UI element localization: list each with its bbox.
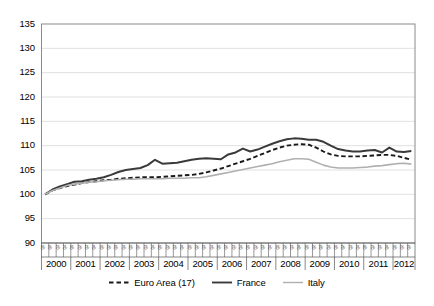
x-quarter-tick-label: Q1 (189, 245, 193, 250)
x-year-label: 2010 (334, 258, 363, 269)
x-quarter-tick-label: Q1 (71, 245, 75, 250)
x-quarter-tick-label: Q3 (86, 245, 90, 250)
plot-border (42, 24, 416, 243)
x-quarter-tick-label: Q4 (269, 245, 273, 250)
y-tick-label: 115 (9, 116, 35, 126)
x-quarter-tick-label: Q1 (394, 245, 398, 250)
x-quarter-tick-label: Q4 (123, 245, 127, 250)
x-year-label: 2000 (42, 258, 71, 269)
x-quarter-tick-label: Q1 (159, 245, 163, 250)
legend-swatch-solid-line-icon (212, 278, 232, 287)
legend-item-italy[interactable]: Italy (283, 277, 325, 288)
x-year-label: 2011 (364, 258, 393, 269)
x-quarter-tick-label: Q2 (342, 245, 346, 250)
x-quarter-tick-label: Q3 (174, 245, 178, 250)
x-year-label: 2012 (393, 258, 415, 269)
line-chart: 1351301251201151101051009590 Q1Q2Q3Q4Q1Q… (0, 0, 434, 306)
x-quarter-tick-label: Q1 (277, 245, 281, 250)
x-quarter-tick-label: Q4 (152, 245, 156, 250)
x-quarter-tick-label: Q2 (225, 245, 229, 250)
x-quarter-tick-label: Q3 (379, 245, 383, 250)
x-quarter-tick-label: Q3 (233, 245, 237, 250)
x-quarter-tick-label: Q1 (101, 245, 105, 250)
x-year-label: 2002 (100, 258, 129, 269)
x-quarter-tick-label: Q4 (298, 245, 302, 250)
x-year-label: 2009 (305, 258, 334, 269)
y-tick-label: 135 (9, 19, 35, 29)
x-quarter-tick-label: Q3 (145, 245, 149, 250)
x-quarter-tick-label: Q4 (64, 245, 68, 250)
x-quarter-tick-label: Q2 (255, 245, 259, 250)
y-tick-label: 95 (9, 213, 35, 223)
legend-swatch-dashed-line-icon (109, 278, 129, 287)
x-quarter-tick-label: Q1 (306, 245, 310, 250)
x-quarter-tick-label: Q1 (335, 245, 339, 250)
chart-legend: Euro Area (17)FranceItaly (0, 277, 434, 288)
x-quarter-tick-label: Q1 (247, 245, 251, 250)
legend-label: France (237, 277, 266, 288)
x-quarter-tick-label: Q4 (386, 245, 390, 250)
x-quarter-tick-label: Q2 (79, 245, 83, 250)
x-quarter-tick-label: Q3 (350, 245, 354, 250)
x-quarter-tick-label: Q3 (203, 245, 207, 250)
x-year-label: 2008 (276, 258, 305, 269)
y-tick-label: 90 (9, 238, 35, 248)
x-year-label: 2006 (217, 258, 246, 269)
x-quarter-tick-label: Q1 (364, 245, 368, 250)
x-quarter-tick-label: Q3 (320, 245, 324, 250)
legend-item-france[interactable]: France (212, 277, 266, 288)
x-year-label: 2007 (247, 258, 276, 269)
x-quarter-tick-label: Q1 (218, 245, 222, 250)
x-quarter-tick-label: Q4 (93, 245, 97, 250)
y-tick-label: 100 (9, 189, 35, 199)
x-year-label: 2001 (71, 258, 100, 269)
x-quarter-tick-label: Q3 (57, 245, 61, 250)
x-quarter-tick-label: Q2 (49, 245, 53, 250)
x-quarter-tick-label: Q2 (372, 245, 376, 250)
series-group (45, 138, 411, 194)
x-quarter-tick-label: Q3 (408, 245, 412, 250)
x-quarter-tick-label: Q4 (357, 245, 361, 250)
x-quarter-tick-label: Q2 (313, 245, 317, 250)
x-quarter-tick-label: Q4 (211, 245, 215, 250)
legend-item-euro-area-17[interactable]: Euro Area (17) (109, 277, 194, 288)
y-tick-label: 105 (9, 165, 35, 175)
x-quarter-tick-label: Q2 (401, 245, 405, 250)
y-tick-label: 130 (9, 43, 35, 53)
x-quarter-tick-label: Q3 (291, 245, 295, 250)
x-quarter-tick-label: Q3 (115, 245, 119, 250)
x-quarter-tick-label: Q4 (328, 245, 332, 250)
gridlines-group (42, 48, 416, 218)
x-quarter-tick-label: Q2 (137, 245, 141, 250)
x-quarter-tick-label: Q4 (240, 245, 244, 250)
series-line-italy (45, 159, 411, 195)
x-quarter-tick-label: Q1 (130, 245, 134, 250)
y-tick-label: 110 (9, 140, 35, 150)
x-quarter-tick-label: Q2 (108, 245, 112, 250)
x-quarter-tick-label: Q2 (284, 245, 288, 250)
x-quarter-tick-label: Q4 (181, 245, 185, 250)
x-quarter-tick-label: Q3 (262, 245, 266, 250)
x-quarter-tick-label: Q2 (167, 245, 171, 250)
x-year-label: 2004 (159, 258, 188, 269)
legend-swatch-solid-line-icon (283, 278, 303, 287)
y-tick-label: 125 (9, 67, 35, 77)
x-year-label: 2005 (188, 258, 217, 269)
x-quarter-tick-label: Q1 (42, 245, 46, 250)
axis-frame (42, 24, 416, 243)
legend-label: Euro Area (17) (134, 277, 194, 288)
x-year-label: 2003 (129, 258, 158, 269)
x-quarter-tick-label: Q2 (196, 245, 200, 250)
y-tick-label: 120 (9, 92, 35, 102)
legend-label: Italy (308, 277, 325, 288)
